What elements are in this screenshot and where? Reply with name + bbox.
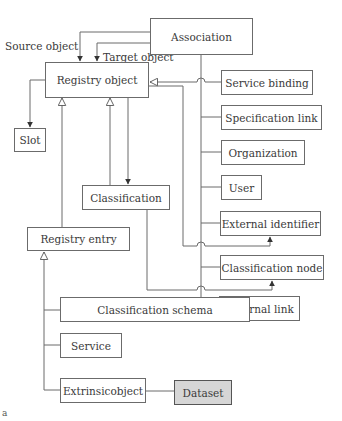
classification-box[interactable]: Classification [82, 185, 170, 210]
user-label: User [229, 182, 254, 194]
service-binding-label: Service binding [225, 77, 309, 89]
service-label: Service [71, 340, 111, 352]
service-box[interactable]: Service [60, 333, 122, 358]
extrinsic-object-label: Extrinsicobject [63, 385, 143, 397]
external-identifier-box[interactable]: External identifier [220, 211, 321, 236]
association-label: Association [171, 31, 232, 43]
dataset-box[interactable]: Dataset [174, 380, 232, 405]
user-box[interactable]: User [221, 175, 262, 200]
registry-object-box[interactable]: Registry object [45, 62, 149, 98]
service-binding-box[interactable]: Service binding [221, 70, 313, 95]
registry-object-label: Registry object [57, 74, 138, 86]
registry-entry-label: Registry entry [40, 233, 116, 245]
specification-link-label: Specification link [225, 112, 317, 124]
registry-entry-box[interactable]: Registry entry [27, 227, 130, 251]
classification-label: Classification [90, 192, 162, 204]
organization-box[interactable]: Organization [221, 140, 305, 165]
classification-node-box[interactable]: Classification node [220, 255, 324, 280]
registry-class-diagram: Source object Target object Association … [0, 0, 342, 421]
association-box[interactable]: Association [150, 18, 253, 55]
figure-marker: a [2, 408, 7, 418]
slot-box[interactable]: Slot [14, 128, 46, 152]
classification-schema-box[interactable]: Classification schema [60, 297, 250, 322]
source-object-label: Source object [5, 40, 78, 52]
organization-label: Organization [228, 147, 297, 159]
dataset-label: Dataset [183, 387, 224, 399]
slot-label: Slot [19, 134, 40, 146]
classification-schema-label: Classification schema [97, 304, 212, 316]
extrinsic-object-box[interactable]: Extrinsicobject [60, 378, 146, 403]
specification-link-box[interactable]: Specification link [221, 105, 322, 130]
external-identifier-label: External identifier [222, 218, 320, 230]
classification-node-label: Classification node [222, 262, 323, 274]
